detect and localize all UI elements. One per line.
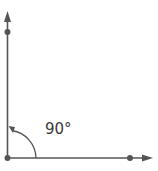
right-arrow-icon [142, 155, 153, 162]
arc-arrow-icon [9, 126, 16, 133]
up-arrow-icon [4, 11, 11, 22]
right-angle-diagram: 90° [0, 0, 158, 171]
angle-arc [12, 131, 36, 159]
angle-figure [0, 0, 158, 171]
vertex-point [5, 155, 11, 161]
point-on-vertical-ray [5, 29, 11, 35]
point-on-horizontal-ray [127, 155, 133, 161]
angle-measure-label: 90° [45, 120, 72, 138]
